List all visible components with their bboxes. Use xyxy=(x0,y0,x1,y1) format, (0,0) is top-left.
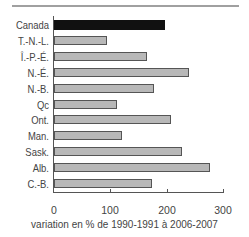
category-label: Man. xyxy=(5,130,49,142)
top-rule xyxy=(12,5,239,7)
bar-10 xyxy=(54,179,152,188)
bar-0 xyxy=(54,20,165,30)
bar-7 xyxy=(54,131,122,140)
bar-5 xyxy=(54,100,117,109)
category-label: Alb. xyxy=(5,162,49,174)
x-axis-label: variation en % de 1990-1991 à 2006-2007 xyxy=(0,219,249,230)
x-tick xyxy=(167,189,168,193)
x-tick-label: 0 xyxy=(39,204,69,216)
category-label: N.-É. xyxy=(5,67,49,79)
category-label: Î.-P.-É. xyxy=(5,51,49,63)
category-label: Qc xyxy=(5,99,49,111)
x-tick-label: 200 xyxy=(152,204,182,216)
category-label: Canada xyxy=(5,19,49,31)
x-tick xyxy=(223,189,224,193)
x-axis-line xyxy=(53,192,224,193)
bar-4 xyxy=(54,84,154,93)
x-tick-label: 100 xyxy=(95,204,125,216)
bar-2 xyxy=(54,52,147,61)
category-label: T.-N.-L. xyxy=(5,35,49,47)
category-label: Sask. xyxy=(5,146,49,158)
y-axis-line xyxy=(53,16,54,193)
x-tick-label: 300 xyxy=(208,204,238,216)
category-label: Ont. xyxy=(5,114,49,126)
bar-6 xyxy=(54,115,171,124)
category-label: C.-B. xyxy=(5,178,49,190)
bar-3 xyxy=(54,68,189,77)
x-tick xyxy=(110,189,111,193)
bar-1 xyxy=(54,36,107,45)
bar-9 xyxy=(54,163,210,172)
bar-8 xyxy=(54,147,182,156)
category-label: N.-B. xyxy=(5,83,49,95)
